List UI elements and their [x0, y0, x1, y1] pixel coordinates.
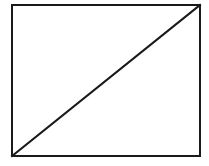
- diagram-canvas: [0, 0, 209, 166]
